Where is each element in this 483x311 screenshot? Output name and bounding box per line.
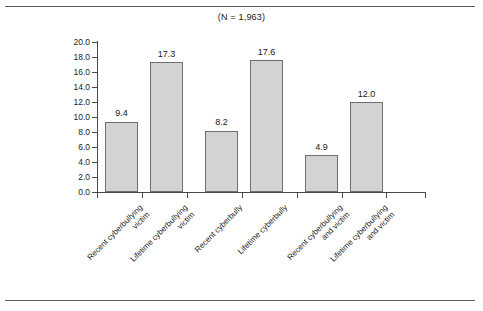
y-axis-tick [92,177,97,178]
y-axis-tick [92,42,97,43]
bar-recent-cyberbully [205,131,238,193]
y-axis-tick-label: 2.0 [56,173,90,182]
y-axis-tick [92,57,97,58]
x-axis-tick [386,193,387,198]
bar-lifetime-cyberbully [250,60,283,192]
bar-value-label: 8.2 [205,118,238,127]
x-axis-tick [342,193,343,198]
y-axis-tick-label: 8.0 [56,128,90,137]
y-axis-tick-label: 14.0 [56,83,90,92]
y-axis-line [97,41,98,193]
bar-value-label: 17.3 [150,50,183,59]
y-axis-tick-label: 12.0 [56,98,90,107]
y-axis-tick [92,87,97,88]
y-axis-tick [92,102,97,103]
x-axis-tick [187,193,188,198]
x-axis-tick [142,193,143,198]
y-axis-tick [92,147,97,148]
bar-lifetime-cyberbullying-victim [150,62,183,192]
bar-lifetime-cyberbullying-and-victim [350,102,383,192]
x-axis-tick [425,193,426,198]
y-axis-tick-label: 4.0 [56,158,90,167]
bar-value-label: 12.0 [350,90,383,99]
top-rule [5,6,475,7]
y-axis-tick-label: 18.0 [56,53,90,62]
y-axis-tick [92,162,97,163]
x-axis-label-lifetime-cyberbullying-and-victim: Lifetime cyberbullying and victim [309,203,396,290]
bar-value-label: 17.6 [250,48,283,57]
bar-value-label: 4.9 [305,143,338,152]
y-axis-tick-label: 0.0 [56,188,90,197]
y-axis-tick [92,72,97,73]
x-axis-tick [297,193,298,198]
x-axis-line [97,192,426,193]
bar-value-label: 9.4 [105,109,138,118]
chart-title: (N = 1,963) [0,12,483,22]
y-axis-tick-label: 20.0 [56,38,90,47]
figure: (N = 1,963) 20.0 18.0 16.0 14.0 12.0 10.… [0,0,483,311]
bar-recent-cyberbullying-and-victim [305,155,338,192]
y-axis-tick [92,132,97,133]
x-axis-tick [242,193,243,198]
y-axis-tick-label: 10.0 [56,113,90,122]
y-axis-tick [92,117,97,118]
y-axis-tick-label: 6.0 [56,143,90,152]
x-axis-tick [97,193,98,198]
bottom-rule [5,300,475,301]
y-axis-tick-label: 16.0 [56,68,90,77]
x-axis-label-lifetime-cyberbullying-victim: Lifetime cyberbullying victim [109,203,196,290]
bar-recent-cyberbullying-victim [105,122,138,193]
